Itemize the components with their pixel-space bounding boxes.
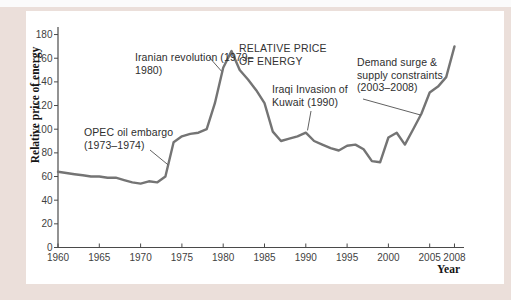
annotation-iraqi-invasion-kuwait: Iraqi Invasion of Kuwait (1990) bbox=[272, 83, 368, 108]
x-tick-label: 1975 bbox=[171, 252, 194, 263]
annotation-demand-surge: Demand surge & supply constraints (2003–… bbox=[357, 56, 471, 94]
x-axis-title: Year bbox=[437, 263, 460, 275]
x-tick-label: 1995 bbox=[336, 252, 359, 263]
x-tick-label: 1985 bbox=[253, 252, 276, 263]
x-tick-label: 2000 bbox=[377, 252, 400, 263]
y-tick-label: 20 bbox=[41, 218, 53, 229]
x-tick-label: 1965 bbox=[88, 252, 111, 263]
x-tick-label: 1980 bbox=[212, 252, 235, 263]
annotation-pointer-line bbox=[150, 150, 168, 165]
y-tick-label: 80 bbox=[41, 147, 53, 158]
x-tick-label: 1990 bbox=[295, 252, 318, 263]
y-axis-title: Relative price of energy bbox=[29, 26, 41, 184]
x-tick-label: 1970 bbox=[129, 252, 152, 263]
y-tick-label: 60 bbox=[41, 171, 53, 182]
y-tick-label: 40 bbox=[41, 195, 53, 206]
annotation-opec-oil-embargo: OPEC oil embargo (1973–1974) bbox=[84, 126, 202, 151]
annotation-pointer-line bbox=[363, 99, 421, 115]
annotation-pointer-line bbox=[308, 111, 312, 130]
x-tick-label: 2005 bbox=[419, 252, 442, 263]
x-tick-label: 2008 bbox=[443, 252, 466, 263]
x-tick-label: 1960 bbox=[47, 252, 70, 263]
annotation-iranian-revolution: Iranian revolution (1979–1980) bbox=[135, 51, 257, 76]
